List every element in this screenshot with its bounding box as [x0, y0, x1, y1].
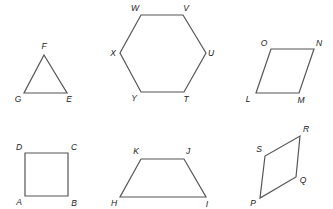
vertex-label-h: H — [111, 198, 118, 208]
vertex-label-g: G — [15, 94, 22, 104]
vertex-label-c: C — [71, 142, 78, 152]
vertex-label-a: A — [15, 197, 22, 207]
parallelogram-group: ONLM — [246, 38, 323, 105]
vertex-label-y: Y — [131, 93, 138, 103]
square-group: DCAB — [15, 142, 78, 208]
vertex-label-q: Q — [300, 175, 307, 185]
vertex-label-f: F — [41, 41, 47, 51]
trapezoid-shape — [120, 159, 206, 197]
parallelogram-shape — [256, 49, 314, 93]
triangle-shape — [24, 55, 67, 93]
rhombus-shape — [260, 136, 300, 198]
vertex-label-n: N — [316, 38, 323, 48]
vertex-label-v: V — [183, 3, 190, 13]
vertex-label-e: E — [66, 94, 72, 104]
vertex-label-l: L — [246, 94, 251, 104]
vertex-label-i: I — [206, 199, 209, 209]
vertex-label-m: M — [297, 95, 305, 105]
vertex-label-s: S — [256, 144, 262, 154]
vertex-label-u: U — [208, 48, 215, 58]
vertex-label-x: X — [109, 48, 116, 58]
trapezoid-group: KJHI — [111, 146, 209, 209]
vertex-label-p: P — [250, 198, 256, 208]
square-shape — [25, 153, 68, 196]
vertex-label-w: W — [131, 3, 140, 13]
vertex-label-d: D — [16, 142, 22, 152]
vertex-label-r: R — [303, 124, 309, 134]
vertex-label-j: J — [185, 146, 191, 156]
rhombus-group: RSQP — [250, 124, 309, 208]
vertex-label-b: B — [71, 198, 77, 208]
hexagon-group: WVXUYT — [109, 3, 215, 104]
vertex-label-t: T — [183, 94, 189, 104]
vertex-label-k: K — [133, 146, 139, 156]
vertex-label-o: O — [261, 38, 268, 48]
triangle-group: FGE — [15, 41, 72, 104]
shapes-diagram: FGEWVXUYTONLMDCABKJHIRSQP — [0, 0, 333, 209]
hexagon-shape — [120, 15, 206, 92]
